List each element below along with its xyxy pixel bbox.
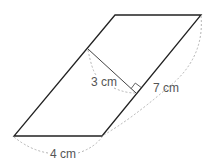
parallelogram-diagram: 3 cm 7 cm 4 cm [0, 0, 216, 166]
height-dashed-arc [88, 50, 96, 75]
side-label: 7 cm [153, 81, 179, 95]
height-label: 3 cm [91, 75, 117, 89]
base-label: 4 cm [50, 147, 76, 161]
right-angle-mark [130, 82, 141, 88]
